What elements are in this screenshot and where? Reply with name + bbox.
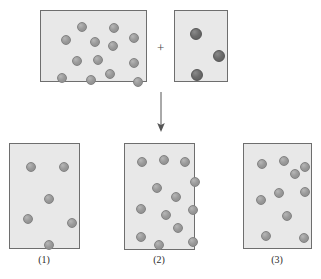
light-particle <box>300 162 310 172</box>
product-box-3 <box>243 143 312 249</box>
dark-particle <box>213 50 225 62</box>
light-particle <box>129 58 139 68</box>
light-particle <box>57 73 67 83</box>
light-particle <box>59 162 69 172</box>
light-particle <box>44 240 54 250</box>
product-box-1 <box>9 143 80 249</box>
light-particle <box>23 214 33 224</box>
light-particle <box>279 156 289 166</box>
light-particle <box>109 23 119 33</box>
light-particle <box>77 22 87 32</box>
light-particle <box>180 157 190 167</box>
light-particle <box>290 169 300 179</box>
light-particle <box>67 218 77 228</box>
light-particle <box>108 41 118 51</box>
light-particle <box>190 177 200 187</box>
light-particle <box>171 192 181 202</box>
light-particle <box>159 155 169 165</box>
plus-sign: + <box>157 41 164 54</box>
light-particle <box>86 75 96 85</box>
box-label-product-3: (3) <box>257 254 297 265</box>
light-particle <box>26 162 36 172</box>
light-particle <box>261 231 271 241</box>
light-particle <box>274 188 284 198</box>
light-particle <box>300 187 310 197</box>
light-particle <box>152 183 162 193</box>
light-particle <box>136 204 146 214</box>
dark-particle <box>191 69 203 81</box>
light-particle <box>256 195 266 205</box>
light-particle <box>137 157 147 167</box>
light-particle <box>299 233 309 243</box>
light-particle <box>93 55 103 65</box>
reaction-diagram-figure: + (1)(2)(3) <box>0 0 321 279</box>
light-particle <box>105 69 115 79</box>
dark-particle <box>190 28 202 40</box>
box-label-product-2: (2) <box>139 254 179 265</box>
reactant-box-a <box>40 10 147 82</box>
light-particle <box>129 33 139 43</box>
light-particle <box>44 194 54 204</box>
light-particle <box>61 35 71 45</box>
light-particle <box>257 159 267 169</box>
light-particle <box>133 77 143 87</box>
light-particle <box>188 237 198 247</box>
down-arrow-icon <box>154 92 168 136</box>
light-particle <box>161 210 171 220</box>
box-label-product-1: (1) <box>24 254 64 265</box>
reactant-box-b <box>174 10 228 82</box>
light-particle <box>188 205 198 215</box>
light-particle <box>282 211 292 221</box>
light-particle <box>90 37 100 47</box>
light-particle <box>173 223 183 233</box>
product-box-2 <box>124 143 195 250</box>
light-particle <box>136 232 146 242</box>
light-particle <box>72 56 82 66</box>
light-particle <box>154 240 164 250</box>
